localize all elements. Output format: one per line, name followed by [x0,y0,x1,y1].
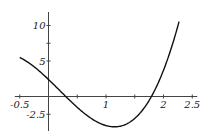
y-tick-label: 5 [39,56,45,67]
x-tick-label: 2 [159,99,166,110]
y-tick-label: -2.5 [26,109,45,120]
y-tick-label: 10 [33,20,46,31]
x-tick-label: 1 [103,99,109,110]
x-tick-label: 2.5 [183,99,200,110]
function-plot: -0.5122.5105-2.5 [0,0,209,135]
